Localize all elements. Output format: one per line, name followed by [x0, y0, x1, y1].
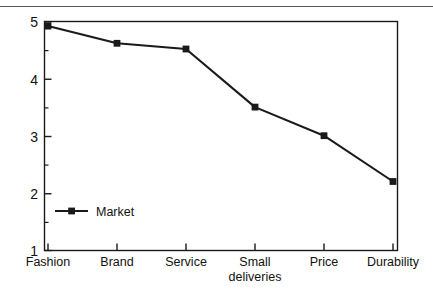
x-label-service: Service: [165, 255, 207, 269]
data-point-fashion: [45, 23, 52, 30]
legend-marker-square: [68, 208, 75, 215]
data-point-price: [321, 132, 328, 139]
data-point-small-deliveries: [252, 104, 259, 111]
x-label-small-deliveries-line2: deliveries: [229, 270, 282, 284]
figure-container: 5 4 3 2 1 Mar: [0, 0, 433, 296]
x-label-fashion: Fashion: [26, 255, 71, 269]
y-tick-label-2: 2: [30, 186, 38, 202]
x-label-brand: Brand: [100, 255, 133, 269]
x-label-durability: Durability: [367, 255, 420, 269]
data-point-brand: [114, 40, 121, 47]
legend-label-market: Market: [96, 205, 135, 219]
y-tick-label-5: 5: [30, 14, 38, 30]
x-label-small-deliveries-line1: Small: [239, 255, 270, 269]
x-axis-category-labels: Fashion Brand Service Small deliveries P…: [26, 255, 420, 284]
line-chart: 5 4 3 2 1 Mar: [0, 0, 433, 296]
data-point-service: [183, 46, 190, 53]
x-label-price: Price: [310, 255, 339, 269]
data-point-durability: [390, 178, 397, 185]
y-tick-label-3: 3: [30, 129, 38, 145]
y-axis-tick-labels: 5 4 3 2 1: [30, 14, 38, 259]
y-tick-label-4: 4: [30, 72, 38, 88]
